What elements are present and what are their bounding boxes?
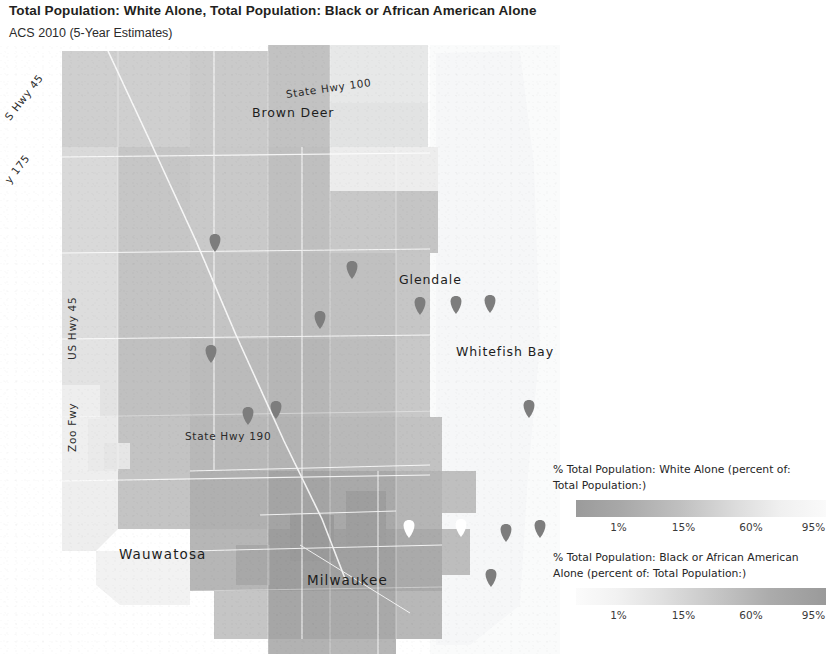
map-pin-icon[interactable]	[456, 519, 467, 537]
map-pin-icon[interactable]	[206, 345, 217, 363]
legend-white-alone-ticks: 1%15%60%95%	[576, 521, 826, 537]
legend-black-alone-ramp	[576, 588, 826, 605]
legend-black-alone-tick-3: 95%	[802, 609, 825, 621]
legend-white-alone-tick-1: 15%	[672, 521, 695, 533]
map-pin-icon[interactable]	[451, 296, 462, 314]
legend-black-alone-title: % Total Population: Black or African Ame…	[553, 550, 815, 581]
map-pin-icon[interactable]	[524, 400, 535, 418]
legend-white-alone-tick-3: 95%	[802, 521, 825, 533]
map-pin-icon[interactable]	[415, 297, 426, 315]
map-pin-icon[interactable]	[485, 295, 496, 313]
map-pin-icon[interactable]	[347, 261, 358, 279]
map-pin-icon[interactable]	[315, 311, 326, 329]
map-pin-icon[interactable]	[501, 524, 512, 542]
legend-white-alone: % Total Population: White Alone (percent…	[553, 462, 827, 537]
legend-black-alone-tick-1: 15%	[672, 609, 695, 621]
map-legend: % Total Population: White Alone (percent…	[553, 462, 827, 625]
map-pin-icon[interactable]	[271, 401, 282, 419]
legend-divider	[553, 537, 827, 550]
legend-black-alone-tick-0: 1%	[610, 609, 627, 621]
map-pin-icon[interactable]	[210, 234, 221, 252]
legend-white-alone-ramp	[576, 500, 826, 517]
legend-black-alone-tick-2: 60%	[739, 609, 762, 621]
map-pin-icon[interactable]	[535, 520, 546, 538]
page-title: Total Population: White Alone, Total Pop…	[9, 3, 537, 18]
page-subtitle: ACS 2010 (5-Year Estimates)	[9, 26, 173, 40]
legend-white-alone-tick-0: 1%	[610, 521, 627, 533]
legend-black-alone: % Total Population: Black or African Ame…	[553, 550, 827, 625]
map-pin-icon[interactable]	[486, 569, 497, 587]
map-pin-icon[interactable]	[404, 520, 415, 538]
map-canvas[interactable]: Brown DeerGlendaleWhitefish BayWauwatosa…	[0, 45, 560, 654]
legend-white-alone-title: % Total Population: White Alone (percent…	[553, 462, 815, 493]
map-pin-icon[interactable]	[243, 407, 254, 425]
legend-white-alone-tick-2: 60%	[739, 521, 762, 533]
legend-black-alone-ticks: 1%15%60%95%	[576, 609, 826, 625]
map-page: Total Population: White Alone, Total Pop…	[0, 0, 827, 654]
map-pins	[0, 45, 560, 654]
